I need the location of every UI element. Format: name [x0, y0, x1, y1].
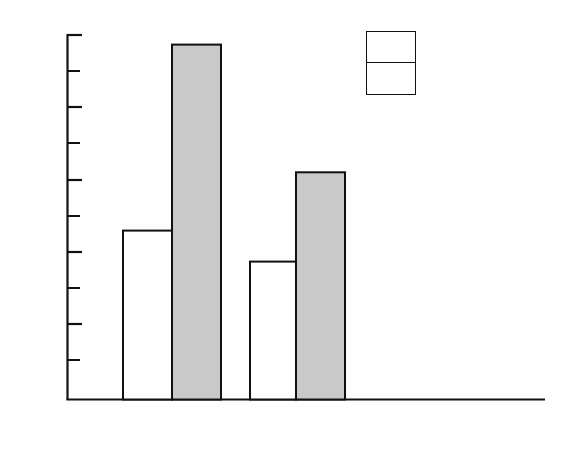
bar-black-students-low-dogmatic	[123, 231, 172, 400]
chart-legend	[366, 31, 568, 101]
bar-white-students-high-dogmatic	[296, 172, 345, 399]
legend-swatch-box	[366, 31, 416, 95]
bar-chart	[0, 0, 568, 451]
bar-white-students-low-dogmatic	[250, 262, 296, 400]
legend-swatch-high-dogmatic	[367, 63, 415, 94]
y-axis-minor-ticks	[68, 71, 81, 360]
legend-labels	[426, 26, 568, 27]
y-axis-major-ticks	[68, 35, 83, 324]
legend-swatch-low-dogmatic	[367, 32, 415, 63]
bar-black-students-high-dogmatic	[172, 45, 221, 400]
